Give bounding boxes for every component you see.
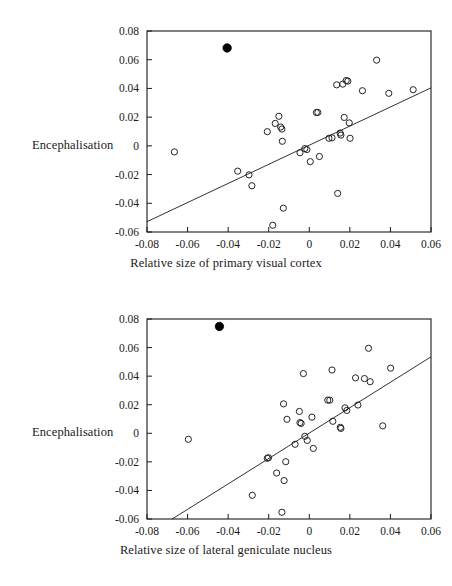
x-tick-label: 0 — [306, 238, 312, 250]
data-point-open — [347, 135, 353, 141]
x-axis-label-top: Relative size of primary visual cortex — [0, 256, 452, 271]
data-point-filled — [215, 322, 223, 330]
y-tick-label: -0.06 — [115, 513, 139, 525]
y-tick-label: -0.06 — [115, 226, 139, 238]
y-tick-label: -0.04 — [115, 484, 139, 496]
data-point-open — [338, 132, 344, 138]
y-axis-label-top: Encephalisation — [32, 138, 113, 153]
data-point-open — [281, 477, 287, 483]
data-point-open — [171, 149, 177, 155]
y-tick-label: 0.08 — [119, 25, 139, 37]
data-point-open — [346, 120, 352, 126]
data-point-open — [264, 129, 270, 135]
x-axis-label-bottom: Relative size of lateral geniculate nucl… — [0, 543, 452, 558]
data-point-open — [185, 436, 191, 442]
x-tick-label: 0.02 — [340, 238, 360, 250]
data-point-open — [352, 375, 358, 381]
data-point-open — [380, 423, 386, 429]
data-point-open — [330, 418, 336, 424]
data-point-open — [316, 153, 322, 159]
data-point-open — [276, 113, 282, 119]
x-tick-label: -0.04 — [216, 238, 240, 250]
data-point-open — [341, 114, 347, 120]
data-point-open — [272, 120, 278, 126]
x-tick-label: -0.02 — [257, 238, 281, 250]
x-tick-label: 0 — [306, 525, 312, 537]
y-tick-label: -0.02 — [115, 169, 139, 181]
data-point-open — [279, 138, 285, 144]
data-point-open — [280, 401, 286, 407]
data-point-open — [334, 82, 340, 88]
x-tick-label: 0.02 — [340, 525, 360, 537]
data-point-open — [388, 365, 394, 371]
x-tick-label: 0.06 — [421, 525, 441, 537]
data-point-open — [284, 416, 290, 422]
data-point-open — [270, 222, 276, 228]
x-tick-label: -0.06 — [176, 525, 200, 537]
x-tick-label: 0.04 — [380, 525, 400, 537]
data-point-open — [329, 367, 335, 373]
data-point-open — [279, 509, 285, 515]
data-point-open — [274, 470, 280, 476]
chart-panel-lateral-geniculate-nucleus: -0.06-0.04-0.0200.020.040.060.08-0.08-0.… — [0, 293, 452, 586]
y-axis-label-bottom: Encephalisation — [32, 425, 113, 440]
data-point-filled — [223, 44, 231, 52]
figure-container: -0.06-0.04-0.0200.020.040.060.08-0.08-0.… — [0, 0, 452, 586]
data-point-open — [307, 159, 313, 165]
x-tick-label: -0.06 — [176, 238, 200, 250]
y-tick-label: -0.04 — [115, 197, 139, 209]
data-point-open — [296, 408, 302, 414]
data-point-open — [410, 87, 416, 93]
y-tick-label: 0.08 — [119, 313, 139, 325]
y-tick-label: 0.02 — [119, 111, 139, 123]
plot-frame — [147, 319, 431, 519]
x-tick-label: 0.06 — [421, 238, 441, 250]
y-tick-label: 0.04 — [119, 370, 139, 382]
data-point-open — [280, 205, 286, 211]
x-tick-label: -0.08 — [135, 525, 159, 537]
x-tick-label: -0.04 — [216, 525, 240, 537]
data-point-open — [386, 90, 392, 96]
data-point-open — [279, 126, 285, 132]
y-tick-label: 0.02 — [119, 399, 139, 411]
data-point-open — [365, 345, 371, 351]
x-tick-label: 0.04 — [380, 238, 400, 250]
x-tick-label: -0.02 — [257, 525, 281, 537]
y-tick-label: 0.06 — [119, 54, 139, 66]
y-tick-label: 0 — [133, 427, 139, 439]
y-tick-label: -0.02 — [115, 456, 139, 468]
data-point-open — [309, 414, 315, 420]
data-point-open — [361, 375, 367, 381]
data-point-open — [310, 445, 316, 451]
data-point-open — [335, 190, 341, 196]
data-point-open — [359, 88, 365, 94]
data-point-open — [235, 168, 241, 174]
data-point-open — [367, 379, 373, 385]
data-point-open — [300, 370, 306, 376]
chart-panel-primary-visual-cortex: -0.06-0.04-0.0200.020.040.060.08-0.08-0.… — [0, 0, 452, 293]
data-point-open — [249, 492, 255, 498]
data-point-open — [249, 183, 255, 189]
data-point-open — [283, 459, 289, 465]
regression-line — [172, 357, 431, 519]
y-tick-label: 0 — [133, 140, 139, 152]
y-tick-label: 0.06 — [119, 342, 139, 354]
x-tick-label: -0.08 — [135, 238, 159, 250]
regression-line — [147, 88, 431, 222]
y-tick-label: 0.04 — [119, 82, 139, 94]
data-point-open — [374, 57, 380, 63]
data-point-open — [304, 146, 310, 152]
